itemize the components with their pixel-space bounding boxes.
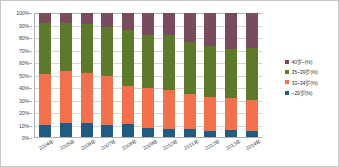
legend-item[interactable]: 30~34岁(%) bbox=[285, 79, 337, 86]
x-axis-tick-label: 2014年 bbox=[244, 137, 262, 151]
x-axis-tick-label: 2013年 bbox=[224, 137, 242, 151]
bar-segment bbox=[39, 125, 51, 137]
bar-segment bbox=[122, 13, 134, 30]
legend-item[interactable]: 40岁~(%) bbox=[285, 58, 337, 65]
bar-segment bbox=[246, 13, 258, 48]
x-axis-tick-label: 2007年 bbox=[99, 137, 117, 151]
x-axis-tick-label: 2004年 bbox=[37, 137, 55, 151]
y-axis: 0%10%20%30%40%50%60%70%80%90%100% bbox=[1, 13, 32, 138]
x-axis-tick-label: 2011年 bbox=[182, 137, 199, 151]
bar-segment bbox=[204, 13, 216, 46]
bar-segment bbox=[81, 13, 93, 24]
y-axis-tick-mark bbox=[29, 126, 32, 127]
x-axis-tick: 2004年 bbox=[38, 139, 50, 148]
bar-segment bbox=[204, 131, 216, 137]
y-axis-tick-label: 40% bbox=[19, 85, 29, 91]
bar-segment bbox=[101, 76, 113, 124]
bar-segment bbox=[142, 88, 154, 128]
bar-column bbox=[246, 13, 258, 137]
y-axis-tick-mark bbox=[29, 13, 32, 14]
bar-column bbox=[60, 13, 72, 137]
y-axis-tick-label: 0% bbox=[22, 135, 29, 141]
y-axis-tick-label: 100% bbox=[16, 10, 29, 16]
y-axis-tick-mark bbox=[29, 101, 32, 102]
y-axis-tick-label: 80% bbox=[19, 35, 29, 41]
chart-container: 0%10%20%30%40%50%60%70%80%90%100% 2004年2… bbox=[0, 0, 339, 167]
bar-segment bbox=[60, 71, 72, 123]
x-axis: 2004年2005年2006年2007年2008年2009年2010年2011年… bbox=[34, 139, 262, 157]
bar-column bbox=[184, 13, 196, 137]
bar-segment bbox=[60, 23, 72, 71]
y-axis-tick-mark bbox=[29, 76, 32, 77]
bar-segment bbox=[184, 94, 196, 129]
bar-segment bbox=[101, 13, 113, 27]
y-axis-tick-mark bbox=[29, 113, 32, 114]
bar-segment bbox=[122, 124, 134, 137]
bar-column bbox=[163, 13, 175, 137]
plot-area bbox=[34, 13, 262, 138]
bar-group bbox=[35, 13, 262, 137]
x-axis-tick-label: 2010年 bbox=[162, 137, 180, 151]
y-axis-tick-label: 60% bbox=[19, 60, 29, 66]
x-axis-tick: 2012年 bbox=[204, 139, 216, 148]
bar-segment bbox=[225, 49, 237, 98]
x-axis-tick-label: 2006年 bbox=[79, 137, 97, 151]
bar-segment bbox=[81, 24, 93, 72]
bar-segment bbox=[81, 73, 93, 124]
y-axis-tick-mark bbox=[29, 38, 32, 39]
y-axis-tick-mark bbox=[29, 26, 32, 27]
x-axis-tick: 2006年 bbox=[80, 139, 92, 148]
bar-segment bbox=[184, 129, 196, 137]
x-axis-tick: 2013年 bbox=[225, 139, 237, 148]
legend: 40岁~(%)35~39岁(%)30~34岁(%)~29岁(%) bbox=[285, 58, 337, 100]
bar-segment bbox=[184, 42, 196, 94]
bar-segment bbox=[60, 13, 72, 23]
bar-column bbox=[204, 13, 216, 137]
x-axis-tick: 2011年 bbox=[183, 139, 195, 148]
bar-segment bbox=[122, 30, 134, 86]
bar-segment bbox=[225, 130, 237, 137]
bar-column bbox=[101, 13, 113, 137]
x-axis-tick: 2007年 bbox=[101, 139, 113, 148]
bar-segment bbox=[122, 86, 134, 124]
bar-segment bbox=[39, 23, 51, 74]
y-axis-tick-label: 90% bbox=[19, 23, 29, 29]
y-axis-tick-label: 70% bbox=[19, 48, 29, 54]
x-axis-tick-label: 2005年 bbox=[58, 137, 76, 151]
bar-segment bbox=[39, 13, 51, 23]
bar-segment bbox=[142, 128, 154, 137]
bar-segment bbox=[142, 13, 154, 35]
x-axis-tick: 2008年 bbox=[121, 139, 133, 148]
bar-column bbox=[225, 13, 237, 137]
bar-segment bbox=[163, 13, 175, 35]
bar-segment bbox=[163, 35, 175, 90]
bar-segment bbox=[163, 90, 175, 129]
bar-segment bbox=[60, 123, 72, 137]
legend-item[interactable]: ~29岁(%) bbox=[285, 89, 337, 96]
legend-item-label: ~29岁(%) bbox=[292, 89, 313, 96]
legend-item[interactable]: 35~39岁(%) bbox=[285, 68, 337, 75]
legend-item-label: 40岁~(%) bbox=[292, 58, 313, 65]
bar-column bbox=[39, 13, 51, 137]
y-axis-tick-label: 50% bbox=[19, 73, 29, 79]
bar-segment bbox=[81, 123, 93, 137]
y-axis-tick-mark bbox=[29, 63, 32, 64]
y-axis-tick-label: 20% bbox=[19, 110, 29, 116]
bar-segment bbox=[246, 131, 258, 137]
legend-swatch-40plus bbox=[285, 60, 289, 64]
y-axis-tick-mark bbox=[29, 138, 32, 139]
x-axis-tick: 2010年 bbox=[163, 139, 175, 148]
x-axis-tick: 2005年 bbox=[59, 139, 71, 148]
bar-segment bbox=[225, 13, 237, 49]
bar-segment bbox=[204, 97, 216, 131]
bar-column bbox=[122, 13, 134, 137]
y-axis-tick-label: 30% bbox=[19, 98, 29, 104]
legend-swatch-29under bbox=[285, 91, 289, 95]
y-axis-tick-mark bbox=[29, 51, 32, 52]
bar-segment bbox=[142, 35, 154, 88]
x-axis-tick-label: 2012年 bbox=[203, 137, 221, 151]
x-axis-tick: 2014年 bbox=[246, 139, 258, 148]
bar-segment bbox=[204, 46, 216, 97]
bar-segment bbox=[246, 100, 258, 132]
legend-item-label: 35~39岁(%) bbox=[292, 68, 318, 75]
